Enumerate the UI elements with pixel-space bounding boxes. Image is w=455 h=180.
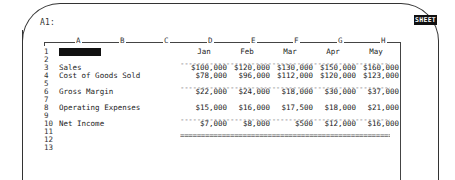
- cell-pointer-a1[interactable]: [59, 48, 101, 56]
- month-header-jan[interactable]: Jan: [189, 48, 219, 56]
- crt-screen-edge: [22, 30, 23, 180]
- row-label-gross-margin[interactable]: Gross Margin: [59, 88, 113, 96]
- value-cell[interactable]: $21,000: [339, 104, 399, 112]
- month-header-apr[interactable]: Apr: [318, 48, 348, 56]
- separator-row-11: ========================================…: [180, 132, 390, 140]
- month-header-mar[interactable]: Mar: [275, 48, 305, 56]
- row-label-cost-of-goods-sold[interactable]: Cost of Goods Sold: [59, 72, 140, 80]
- row-header-13[interactable]: 13: [44, 144, 53, 152]
- value-cell[interactable]: $123,000: [339, 72, 399, 80]
- worksheet-corner: [44, 42, 45, 46]
- value-cell[interactable]: $16,000: [339, 120, 399, 128]
- column-header-d[interactable]: D: [207, 36, 214, 46]
- column-header-g[interactable]: G: [337, 36, 344, 46]
- mode-indicator-badge: SHEET: [414, 15, 437, 25]
- column-header-a[interactable]: A: [75, 36, 82, 46]
- column-header-c[interactable]: C: [163, 36, 170, 46]
- column-header-b[interactable]: B: [119, 36, 126, 46]
- month-header-feb[interactable]: Feb: [232, 48, 262, 56]
- cell-address-indicator: A1:: [40, 18, 55, 27]
- column-header-f[interactable]: F: [293, 36, 300, 46]
- column-header-e[interactable]: E: [250, 36, 257, 46]
- value-cell[interactable]: $37,000: [339, 88, 399, 96]
- row-label-operating-expenses[interactable]: Operating Expenses: [59, 104, 140, 112]
- row-label-net-income[interactable]: Net Income: [59, 120, 104, 128]
- column-header-h[interactable]: H: [380, 36, 387, 46]
- month-header-may[interactable]: May: [361, 48, 391, 56]
